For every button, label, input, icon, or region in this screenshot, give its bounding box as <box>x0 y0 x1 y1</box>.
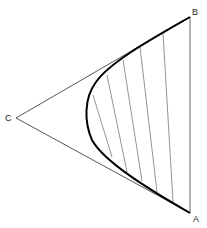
hatch-line <box>123 60 142 181</box>
parabola-curve <box>86 17 190 213</box>
hatch-line <box>163 33 173 202</box>
parabola-diagram: B C A <box>0 0 207 228</box>
label-c: C <box>5 113 12 123</box>
label-a: A <box>193 214 199 224</box>
hatch-line <box>140 47 157 192</box>
hatch-line <box>107 75 127 172</box>
label-b: B <box>192 7 198 17</box>
hatch-line <box>93 95 112 157</box>
